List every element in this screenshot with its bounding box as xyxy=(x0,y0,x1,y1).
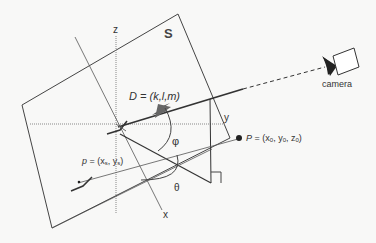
camera-label: camera xyxy=(322,80,352,89)
z-axis-label: z xyxy=(113,25,118,35)
x-axis-label: x xyxy=(163,210,168,220)
origin-glyph xyxy=(107,121,127,134)
plane-s xyxy=(22,14,230,228)
P-point xyxy=(236,135,242,141)
projection-line xyxy=(120,134,211,183)
plane-label: S xyxy=(164,27,173,40)
theta-label: θ xyxy=(174,183,180,193)
p-point xyxy=(78,181,81,184)
y-axis-label: y xyxy=(224,113,229,123)
p-label: p = (xs, ys) xyxy=(82,157,123,166)
right-angle-marker xyxy=(211,172,221,183)
phi-label: φ xyxy=(172,136,179,147)
p-glyph xyxy=(71,177,92,191)
diagram-canvas: S z y x D = (k,l,m) φ θ camera P = (x0, … xyxy=(0,0,376,243)
camera-ray xyxy=(243,67,325,89)
camera-icon xyxy=(333,48,359,75)
direction-vector-label: D = (k,l,m) xyxy=(129,91,180,102)
vertical-drop-line xyxy=(210,99,211,183)
P-label: P = (x0, y0, z0) xyxy=(246,134,302,143)
diagram-svg xyxy=(0,0,376,243)
